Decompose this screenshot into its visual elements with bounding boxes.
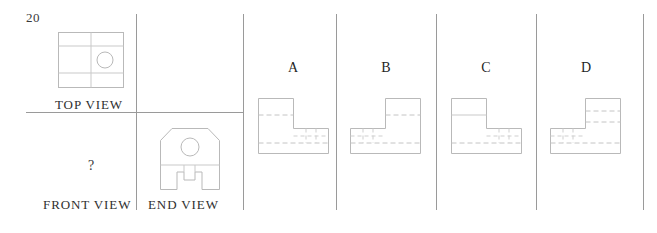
option-b[interactable]: B (336, 14, 436, 210)
option-divider-4 (643, 14, 644, 210)
label-top-view: TOP VIEW (55, 97, 123, 113)
option-a-letter: A (243, 60, 343, 76)
label-front-view: FRONT VIEW (43, 197, 131, 213)
end-view-drawing (160, 128, 220, 190)
option-c-letter: C (436, 60, 536, 76)
option-d-letter: D (536, 60, 636, 76)
option-b-figure (336, 98, 436, 160)
option-c-figure (436, 98, 536, 160)
option-a[interactable]: A (243, 14, 343, 210)
question-number: 20 (26, 10, 40, 26)
option-c[interactable]: C (436, 14, 536, 210)
option-d[interactable]: D (536, 14, 636, 210)
worksheet-page: 20 TOP VIEW FRONT VIEW END VIEW ? A (0, 0, 657, 233)
label-end-view: END VIEW (148, 197, 219, 213)
option-d-figure (536, 98, 636, 160)
top-view-drawing (58, 32, 124, 88)
option-a-figure (243, 98, 343, 160)
option-b-letter: B (336, 60, 436, 76)
front-view-question-mark: ? (88, 158, 94, 174)
